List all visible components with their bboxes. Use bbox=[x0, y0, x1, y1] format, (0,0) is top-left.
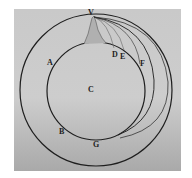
label-g: G bbox=[93, 140, 99, 149]
label-e: E bbox=[120, 52, 125, 61]
label-c: C bbox=[88, 85, 94, 94]
label-a: A bbox=[47, 58, 53, 67]
earth-circle bbox=[47, 42, 145, 140]
label-b: B bbox=[59, 127, 65, 136]
newton-cannonball-diagram: V A B C D E F G bbox=[0, 0, 192, 178]
label-d: D bbox=[112, 50, 118, 59]
label-f: F bbox=[140, 59, 145, 68]
label-v: V bbox=[88, 8, 94, 17]
trajectory-ellipse bbox=[94, 17, 168, 138]
